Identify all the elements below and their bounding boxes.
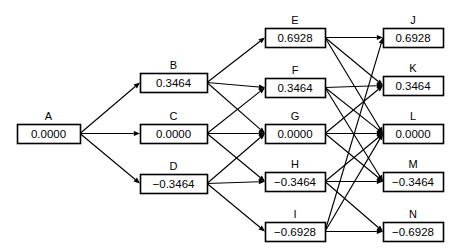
node-j-value: 0.6928	[395, 32, 430, 44]
edge-a-to-b	[80, 83, 140, 134]
node-i-label: I	[293, 208, 296, 220]
node-l-value: 0.0000	[395, 128, 430, 140]
node-n-value: −0.6928	[392, 226, 434, 238]
node-h-label: H	[291, 158, 299, 170]
node-i-value: −0.6928	[274, 226, 316, 238]
node-g[interactable]: G0.0000	[266, 110, 326, 144]
node-m-value: −0.3464	[392, 176, 434, 188]
node-l-label: L	[410, 110, 416, 122]
edge-e-to-k	[325, 38, 383, 86]
node-j[interactable]: J0.6928	[384, 14, 444, 48]
node-a[interactable]: A0.0000	[18, 110, 81, 144]
edge-b-to-f	[207, 83, 265, 90]
edge-h-to-n	[325, 182, 383, 232]
edge-e-to-j	[325, 35, 383, 40]
node-b[interactable]: B0.3464	[141, 59, 208, 93]
edge-c-to-g	[207, 131, 265, 136]
node-m[interactable]: M−0.3464	[384, 158, 444, 192]
node-d[interactable]: D−0.3464	[141, 160, 208, 194]
node-k[interactable]: K0.3464	[384, 62, 444, 96]
node-f[interactable]: F0.3464	[266, 64, 326, 98]
edges-layer	[80, 35, 384, 234]
node-b-value: 0.3464	[156, 77, 192, 89]
node-c-label: C	[170, 110, 178, 122]
edge-d-to-i	[207, 184, 265, 232]
node-f-label: F	[292, 64, 299, 76]
node-j-label: J	[410, 14, 416, 26]
node-a-value: 0.0000	[31, 128, 66, 140]
edge-d-to-h	[207, 179, 265, 184]
node-h[interactable]: H−0.3464	[266, 158, 326, 192]
node-l[interactable]: L0.0000	[384, 110, 444, 144]
node-g-value: 0.0000	[277, 128, 312, 140]
edge-b-to-e	[207, 38, 265, 83]
lattice-diagram: A0.0000B0.3464C0.0000D−0.3464E0.6928F0.3…	[0, 0, 457, 251]
node-d-value: −0.3464	[153, 178, 195, 190]
node-k-value: 0.3464	[395, 80, 431, 92]
node-e[interactable]: E0.6928	[266, 14, 326, 48]
node-m-label: M	[408, 158, 417, 170]
node-e-label: E	[291, 14, 298, 26]
node-e-value: 0.6928	[277, 32, 312, 44]
node-c[interactable]: C0.0000	[141, 110, 208, 144]
node-c-value: 0.0000	[156, 128, 191, 140]
node-i[interactable]: I−0.6928	[266, 208, 326, 242]
node-g-label: G	[291, 110, 300, 122]
node-n-label: N	[409, 208, 417, 220]
node-f-value: 0.3464	[277, 82, 313, 94]
edge-i-to-n	[325, 229, 383, 234]
node-k-label: K	[409, 62, 417, 74]
edge-a-to-c	[80, 131, 140, 136]
edge-i-to-j	[325, 38, 384, 232]
edge-i-to-l	[325, 134, 383, 232]
node-d-label: D	[170, 160, 178, 172]
edge-b-to-g	[207, 83, 265, 134]
node-n[interactable]: N−0.6928	[384, 208, 444, 242]
node-b-label: B	[170, 59, 177, 71]
edge-a-to-d	[80, 134, 140, 184]
lattice-svg: A0.0000B0.3464C0.0000D−0.3464E0.6928F0.3…	[0, 0, 457, 251]
node-h-value: −0.3464	[274, 176, 316, 188]
node-a-label: A	[45, 110, 53, 122]
